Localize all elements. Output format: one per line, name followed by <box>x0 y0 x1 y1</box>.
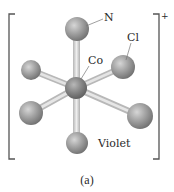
label-cl: Cl <box>127 31 139 44</box>
atom-co-center <box>65 77 87 99</box>
atom-left-front <box>19 101 43 125</box>
charge-label: + <box>161 11 169 21</box>
right-bracket <box>153 14 159 159</box>
left-bracket <box>9 14 15 159</box>
atom-left-back <box>21 60 41 80</box>
label-n: N <box>104 11 114 24</box>
label-isomer-violet: Violet <box>97 137 131 150</box>
atom-bottom <box>66 132 88 154</box>
atom-cl-right-back <box>111 55 135 79</box>
atom-right-front <box>127 103 153 129</box>
label-co: Co <box>88 54 103 67</box>
figure-caption: (a) <box>0 173 174 188</box>
atom-n-top <box>65 17 89 41</box>
octahedral-complex-diagram: + N Cl Co Violet <box>0 0 174 192</box>
